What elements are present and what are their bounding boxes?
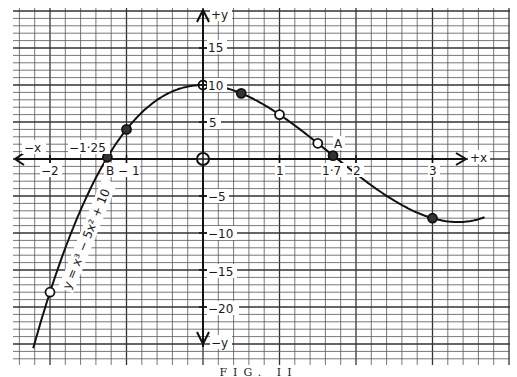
minus-y-label: −y (211, 336, 228, 350)
x-tick-2: 2 (353, 164, 361, 178)
y-tick-neg15: −15 (208, 265, 233, 279)
grid (13, 8, 510, 365)
root-a-label: 1·7 (322, 164, 341, 178)
y-tick-neg20: −20 (208, 302, 233, 316)
figure-caption: FIG. II (0, 366, 517, 377)
graph-paper-plot: +y +x −x −y −2 B − 1 1 2 3 −1·25 1·7 A 1… (0, 0, 517, 377)
axis-labels: +y +x −x −y −2 B − 1 1 2 3 −1·25 1·7 A 1… (22, 7, 490, 350)
root-b-label: −1·25 (69, 141, 106, 155)
y-tick-10: 10 (208, 79, 223, 93)
minus-x-label: −x (24, 141, 41, 155)
y-tick-neg10: −10 (208, 227, 233, 241)
plus-x-label: +x (470, 151, 487, 165)
y-tick-5: 5 (209, 116, 217, 130)
x-tick-neg1-b: B − 1 (106, 164, 140, 178)
point-a-label: A (334, 137, 343, 151)
x-tick-1: 1 (276, 164, 284, 178)
y-tick-15: 15 (208, 41, 223, 55)
y-tick-neg5: −5 (208, 190, 226, 204)
x-tick-3: 3 (429, 164, 437, 178)
x-tick-neg2: −2 (41, 164, 59, 178)
plus-y-label: +y (211, 8, 228, 22)
axes (15, 10, 466, 347)
